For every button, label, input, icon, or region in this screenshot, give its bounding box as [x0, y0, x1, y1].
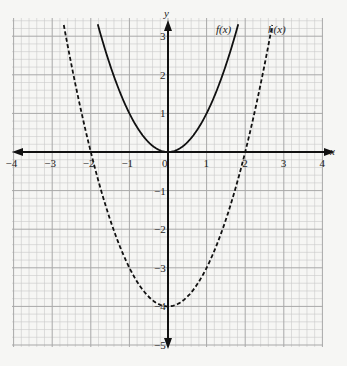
svg-text:1: 1 [204, 157, 210, 169]
svg-text:−1: −1 [121, 157, 133, 169]
svg-text:−1: −1 [154, 185, 166, 197]
svg-text:3: 3 [160, 30, 166, 42]
svg-text:−5: −5 [154, 339, 166, 351]
svg-text:−4: −4 [6, 157, 18, 169]
svg-text:−2: −2 [83, 157, 95, 169]
x-axis-label: x [330, 146, 335, 157]
svg-text:−3: −3 [44, 157, 56, 169]
svg-text:3: 3 [281, 157, 287, 169]
svg-text:2: 2 [160, 69, 166, 81]
svg-text:−2: −2 [154, 223, 166, 235]
svg-text:2: 2 [242, 157, 248, 169]
svg-text:4: 4 [319, 157, 325, 169]
f-curve-label: f(x) [216, 24, 231, 35]
h-curve-label: h(x) [268, 24, 286, 35]
y-axis-label: y [164, 8, 169, 19]
svg-text:0: 0 [162, 157, 168, 169]
svg-text:−4: −4 [154, 300, 166, 312]
svg-text:−3: −3 [154, 262, 166, 274]
axes [12, 20, 335, 349]
coordinate-plane: −4−3−2−101234321−1−2−3−4−5 [0, 0, 347, 366]
svg-text:1: 1 [160, 107, 166, 119]
